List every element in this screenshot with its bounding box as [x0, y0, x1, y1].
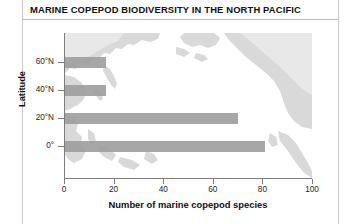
- chart-figure: MARINE COPEPOD BIODIVERSITY IN THE NORTH…: [0, 0, 351, 224]
- y-tick-2: [58, 118, 64, 119]
- x-tick-label-0: 0: [49, 185, 79, 194]
- y-tick-label-0: 60°N: [0, 57, 54, 66]
- y-tick-0: [58, 62, 64, 63]
- y-tick-1: [58, 90, 64, 91]
- bar-40n: [64, 85, 106, 96]
- x-tick-label-4: 80: [247, 185, 277, 194]
- y-tick-3: [58, 146, 64, 147]
- x-tick-5: [312, 179, 313, 184]
- x-axis-line: [64, 178, 312, 179]
- y-tick-label-3: 0°: [0, 141, 54, 150]
- x-tick-2: [163, 179, 164, 184]
- bar-20n: [64, 113, 238, 124]
- figure-right-rule: [338, 0, 339, 224]
- x-tick-3: [213, 179, 214, 184]
- plot-area: [64, 33, 312, 178]
- chart-title: MARINE COPEPOD BIODIVERSITY IN THE NORTH…: [30, 4, 301, 15]
- title-divider: [22, 19, 338, 20]
- x-tick-label-3: 60: [198, 185, 228, 194]
- x-tick-label-1: 20: [99, 185, 129, 194]
- y-axis-line: [64, 33, 65, 179]
- north-pacific-map-background: [64, 33, 312, 178]
- x-tick-1: [114, 179, 115, 184]
- x-tick-label-5: 100: [297, 185, 327, 194]
- bar-60n: [64, 57, 106, 68]
- bar-0: [64, 141, 265, 152]
- x-tick-label-2: 40: [148, 185, 178, 194]
- x-tick-4: [262, 179, 263, 184]
- y-tick-label-2: 20°N: [0, 113, 54, 122]
- x-tick-0: [64, 179, 65, 184]
- x-axis-title: Number of marine copepod species: [64, 199, 312, 210]
- y-tick-label-1: 40°N: [0, 85, 54, 94]
